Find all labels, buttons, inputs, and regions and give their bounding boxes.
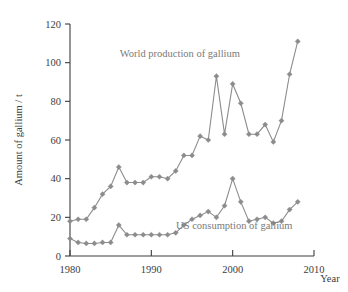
data-point [76, 217, 81, 222]
data-point [222, 132, 227, 137]
x-tick-label-1990: 1990 [141, 264, 162, 275]
data-point [157, 232, 162, 237]
x-tick-label-1980: 1980 [60, 264, 81, 275]
data-point [271, 139, 276, 144]
data-point [230, 176, 235, 181]
y-tick-label-40: 40 [51, 173, 62, 184]
data-series-layer [67, 39, 300, 246]
data-point [141, 232, 146, 237]
x-axis-ticks [70, 250, 314, 256]
series-annotation-0: World production of gallium [120, 48, 240, 59]
y-axis-group: 020406080100120 Amount of gallium / t [13, 19, 70, 262]
x-axis-group: 1980199020002010 Year [60, 250, 341, 284]
data-point [238, 101, 243, 106]
data-point [198, 134, 203, 139]
data-point [84, 241, 89, 246]
series-annotation-1: US consumption of gallium [176, 220, 292, 231]
y-tick-label-100: 100 [45, 57, 61, 68]
y-tick-label-0: 0 [56, 251, 61, 262]
data-point [92, 241, 97, 246]
data-point [246, 132, 251, 137]
data-point [189, 153, 194, 158]
data-point [132, 180, 137, 185]
x-tick-label-2000: 2000 [222, 264, 243, 275]
data-point [157, 174, 162, 179]
y-tick-label-120: 120 [45, 19, 61, 30]
x-axis-title: Year [320, 273, 340, 284]
data-point [67, 236, 72, 241]
y-axis-tick-labels: 020406080100120 [45, 19, 61, 262]
data-point [279, 118, 284, 123]
data-point [149, 232, 154, 237]
data-point [132, 232, 137, 237]
data-point [124, 180, 129, 185]
data-point [76, 240, 81, 245]
data-point [206, 137, 211, 142]
data-point [238, 199, 243, 204]
data-point [108, 240, 113, 245]
y-tick-label-20: 20 [51, 212, 62, 223]
data-point [295, 39, 300, 44]
x-axis-tick-labels: 1980199020002010 [60, 264, 325, 275]
chart-canvas: 020406080100120 Amount of gallium / t 19… [0, 0, 348, 292]
series-1 [67, 176, 300, 246]
data-point [67, 219, 72, 224]
data-point [100, 240, 105, 245]
data-point [165, 232, 170, 237]
data-point [214, 74, 219, 79]
y-axis-title: Amount of gallium / t [13, 94, 24, 186]
data-point [230, 81, 235, 86]
y-tick-label-80: 80 [51, 96, 62, 107]
data-point [198, 213, 203, 218]
data-point [116, 164, 121, 169]
data-point [181, 153, 186, 158]
series-line [70, 179, 298, 244]
y-tick-label-60: 60 [51, 135, 62, 146]
series-0 [67, 39, 300, 224]
data-point [287, 72, 292, 77]
gallium-line-chart: 020406080100120 Amount of gallium / t 19… [0, 0, 348, 292]
